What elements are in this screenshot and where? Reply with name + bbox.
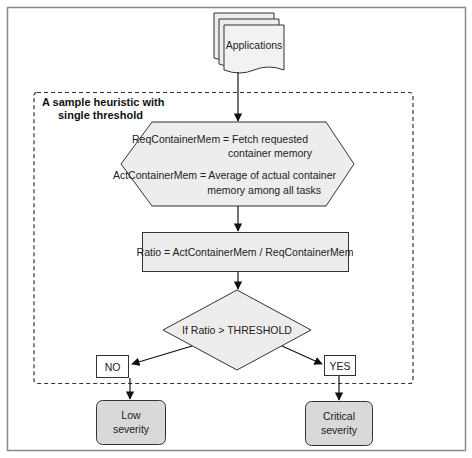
- flowchart-svg: Applications A sample heuristic with sin…: [0, 0, 472, 458]
- low-severity-line2: severity: [113, 423, 150, 435]
- ratio-process-node: Ratio = ActContainerMem / ReqContainerMe…: [137, 233, 354, 272]
- no-label: NO: [105, 361, 121, 373]
- prepare-node: ReqContainerMem = Fetch requested contai…: [113, 122, 354, 206]
- decision-label: If Ratio > THRESHOLD: [182, 324, 292, 336]
- prepare-line2: container memory: [228, 147, 313, 159]
- critical-severity-line1: Critical: [323, 410, 355, 422]
- group-title-line1: A sample heuristic with: [42, 96, 165, 108]
- no-branch-label-box: NO: [97, 356, 129, 378]
- yes-label: YES: [329, 360, 350, 372]
- critical-severity-node: Critical severity: [306, 402, 373, 446]
- prepare-line3: ActContainerMem = Average of actual cont…: [113, 169, 337, 181]
- applications-node: Applications: [214, 13, 284, 73]
- prepare-line1: ReqContainerMem = Fetch requested: [132, 133, 308, 145]
- low-severity-line1: Low: [121, 409, 141, 421]
- critical-severity-line2: severity: [321, 424, 358, 436]
- prepare-line4: memory among all tasks: [207, 184, 321, 196]
- applications-label: Applications: [226, 39, 283, 51]
- ratio-label: Ratio = ActContainerMem / ReqContainerMe…: [137, 246, 354, 258]
- group-title-line2: single threshold: [58, 109, 143, 121]
- yes-branch-label-box: YES: [325, 356, 356, 376]
- low-severity-node: Low severity: [97, 401, 166, 445]
- diagram-canvas: Applications A sample heuristic with sin…: [0, 0, 472, 458]
